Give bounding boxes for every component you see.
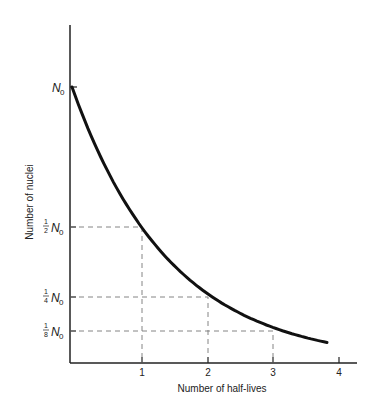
y-label-half: 1 2 N 0 bbox=[43, 218, 64, 237]
guide-quarter bbox=[70, 297, 208, 363]
svg-text:0: 0 bbox=[59, 298, 64, 307]
decay-curve bbox=[72, 87, 327, 343]
x-tick-label-2: 2 bbox=[205, 367, 211, 378]
x-tick-label-1: 1 bbox=[139, 367, 145, 378]
x-axis-title: Number of half-lives bbox=[178, 383, 267, 394]
x-tick-label-3: 3 bbox=[270, 367, 276, 378]
y-label-n0: N 0 bbox=[52, 81, 65, 97]
svg-text:2: 2 bbox=[44, 227, 48, 234]
svg-text:4: 4 bbox=[44, 297, 48, 304]
svg-text:0: 0 bbox=[60, 88, 65, 97]
guide-half bbox=[70, 227, 142, 363]
svg-text:0: 0 bbox=[59, 228, 64, 237]
y-label-eighth: 1 8 N 0 bbox=[43, 322, 64, 341]
svg-text:8: 8 bbox=[44, 331, 48, 338]
svg-text:1: 1 bbox=[44, 288, 48, 295]
y-axis-title: Number of nuclei bbox=[24, 164, 35, 240]
decay-chart: N 0 1 2 N 0 1 4 N 0 1 8 N 0 1 2 3 4 Numb… bbox=[0, 0, 384, 409]
svg-text:0: 0 bbox=[59, 332, 64, 341]
x-tick-label-4: 4 bbox=[336, 367, 342, 378]
y-label-quarter: 1 4 N 0 bbox=[43, 288, 64, 307]
svg-text:1: 1 bbox=[44, 322, 48, 329]
svg-text:1: 1 bbox=[44, 218, 48, 225]
guide-eighth bbox=[70, 331, 273, 363]
guide-lines bbox=[70, 227, 273, 363]
